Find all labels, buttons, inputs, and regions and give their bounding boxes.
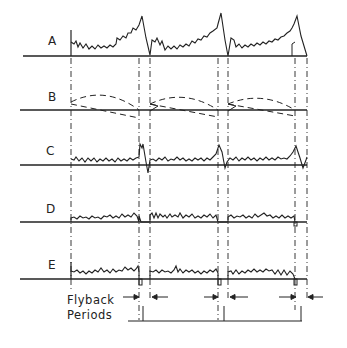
flyback-label-line2: Periods: [67, 308, 114, 323]
trace-a: [23, 13, 307, 56]
trace-e: [20, 262, 307, 285]
waveform-diagram: [0, 0, 347, 348]
arrow-icons: [123, 295, 323, 300]
flyback-periods-label: Flyback Periods: [67, 293, 114, 323]
trace-b: [20, 95, 307, 118]
flyback-label-line1: Flyback: [67, 293, 114, 308]
guide-lines: [71, 58, 307, 320]
flyback-markers: [123, 295, 323, 322]
trace-c: [20, 144, 307, 173]
trace-d: [20, 213, 307, 226]
